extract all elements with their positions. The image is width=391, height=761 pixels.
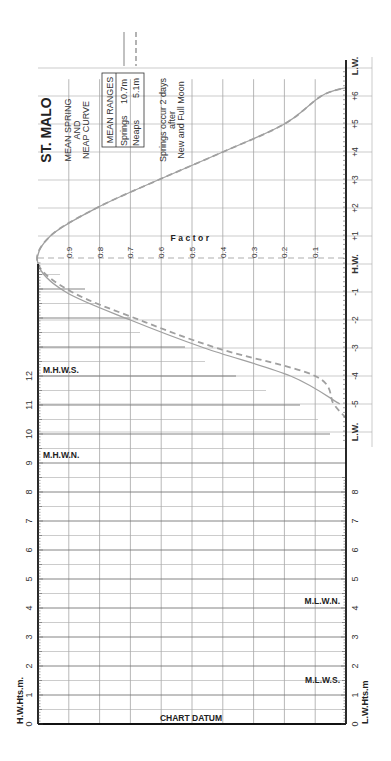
time-axis-label: -5 xyxy=(350,400,360,408)
time-axis-labels: L.W.+6+5+4+3+2+1H.W.-1-2-3-4-5L.W. xyxy=(350,57,360,442)
lw-height-tick-label: 2 xyxy=(350,663,360,668)
factor-tick-label: 0.9 xyxy=(65,246,74,258)
time-axis-label: +6 xyxy=(350,91,360,101)
factor-tick-label: 0.5 xyxy=(188,246,197,258)
hw-height-tick-label: 2 xyxy=(24,663,34,668)
lw-height-labels: 012345678 xyxy=(350,489,360,726)
factor-label: Factor xyxy=(171,233,212,243)
factor-tick-labels: 0.90.80.70.60.50.40.30.20.1 xyxy=(65,246,320,258)
hw-height-tick-label: 1 xyxy=(24,692,34,697)
hw-height-tick-label: 5 xyxy=(24,576,34,581)
time-axis-label: H.W. xyxy=(350,254,360,274)
factor-tick-label: 0.4 xyxy=(219,246,228,258)
factor-tick-label: 0.6 xyxy=(157,246,166,258)
lw-height-tick-label: 4 xyxy=(350,605,360,610)
hw-height-tick-label: 0 xyxy=(24,721,34,726)
hw-height-tick-label: 10 xyxy=(24,429,34,439)
mean-ranges-legend: MEAN RANGES Springs 10.7m Neaps 5.1m xyxy=(102,32,144,147)
title: ST. MALO xyxy=(38,97,54,162)
hw-height-labels: 0123456789101112 xyxy=(24,371,34,727)
hw-height-tick-label: 4 xyxy=(24,605,34,610)
lw-height-tick-label: 8 xyxy=(350,489,360,494)
neaps-label: Neaps xyxy=(131,119,141,146)
mlwn-marker: M.L.W.N. xyxy=(305,596,340,606)
time-axis-label: +1 xyxy=(350,231,360,241)
time-axis-label: -2 xyxy=(350,316,360,324)
lw-height-tick-label: 0 xyxy=(350,721,360,726)
chart-datum-label: CHART DATUM xyxy=(160,713,222,723)
hw-height-tick-label: 6 xyxy=(24,547,34,552)
factor-tick-label: 0.1 xyxy=(311,246,320,258)
time-axis-label: L.W. xyxy=(350,57,360,76)
neaps-value: 5.1m xyxy=(131,78,141,98)
factor-tick-label: 0.8 xyxy=(96,246,105,258)
time-axis-label: +5 xyxy=(350,119,360,129)
hw-height-tick-label: 8 xyxy=(24,489,34,494)
hw-height-tick-label: 7 xyxy=(24,518,34,523)
hw-heights-axis-label: H.W.Hts.m. xyxy=(15,677,25,724)
lw-heights-axis-label: L.W.Hts.m xyxy=(360,680,370,724)
note-line-3: New and Full Moon xyxy=(176,81,186,159)
time-axis-label: +3 xyxy=(350,175,360,185)
hw-height-tick-label: 3 xyxy=(24,634,34,639)
factor-tick-label: 0.7 xyxy=(126,246,135,258)
factor-tick-label: 0.3 xyxy=(250,246,259,258)
lw-height-tick-label: 5 xyxy=(350,576,360,581)
springs-label: Springs xyxy=(119,115,129,146)
time-axis-label: +2 xyxy=(350,203,360,213)
title-block: ST. MALO MEAN SPRING AND NEAP CURVE xyxy=(38,97,91,162)
lw-height-tick-label: 1 xyxy=(350,692,360,697)
tidal-curve-diagram: ST. MALO MEAN SPRING AND NEAP CURVE MEAN… xyxy=(0,0,391,761)
time-axis-label: L.W. xyxy=(350,423,360,442)
mlws-marker: M.L.W.S. xyxy=(305,675,340,685)
factor-tick-label: 0.2 xyxy=(280,246,289,258)
lw-height-tick-label: 6 xyxy=(350,547,360,552)
hw-height-tick-label: 12 xyxy=(24,371,34,381)
time-axis-label: +4 xyxy=(350,147,360,157)
springs-note: Springs occur 2 days after New and Full … xyxy=(158,77,186,162)
time-axis-label: -3 xyxy=(350,344,360,352)
lw-height-tick-label: 3 xyxy=(350,634,360,639)
time-axis-label: -1 xyxy=(350,288,360,296)
hw-height-tick-label: 9 xyxy=(24,460,34,465)
subtitle-line-3: NEAP CURVE xyxy=(81,101,91,159)
mhws-marker: M.H.W.S. xyxy=(43,365,79,375)
springs-value: 10.7m xyxy=(119,79,129,104)
mhwn-marker: M.H.W.N. xyxy=(43,450,79,460)
lw-height-tick-label: 7 xyxy=(350,518,360,523)
hw-height-tick-label: 11 xyxy=(24,400,34,409)
time-axis-label: -4 xyxy=(350,372,360,380)
mean-ranges-header: MEAN RANGES xyxy=(105,77,115,144)
